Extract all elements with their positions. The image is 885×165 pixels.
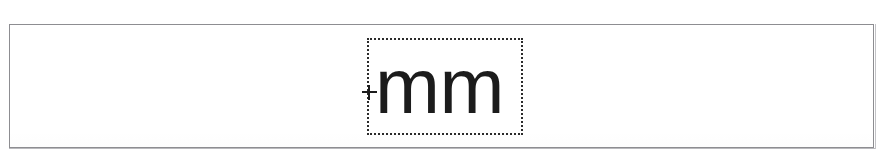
selected-text[interactable]: mm bbox=[375, 40, 515, 132]
crosshair-vertical-bar bbox=[368, 85, 370, 100]
frame-right-edge bbox=[875, 24, 876, 149]
frame-bottom-edge bbox=[9, 148, 875, 149]
screenshot-root: mm bbox=[0, 0, 885, 165]
crosshair-caret-icon bbox=[362, 85, 377, 100]
